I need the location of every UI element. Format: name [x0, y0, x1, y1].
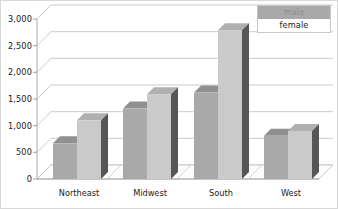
- bar-chart: 3,000 2,500 2,000 1,500 1,000 500 0 Nort…: [0, 0, 338, 209]
- chart-legend: male female: [257, 5, 331, 33]
- x-tick-label-northeast: Northeast: [43, 189, 115, 197]
- x-tick-label-midwest: Midwest: [114, 189, 186, 197]
- legend-label-male: male: [284, 8, 305, 16]
- legend-label-female: female: [280, 21, 309, 29]
- legend-item-female: female: [258, 19, 330, 32]
- legend-item-male: male: [258, 6, 330, 19]
- x-tick-label-west: West: [255, 189, 327, 197]
- x-tick-label-south: South: [185, 189, 257, 197]
